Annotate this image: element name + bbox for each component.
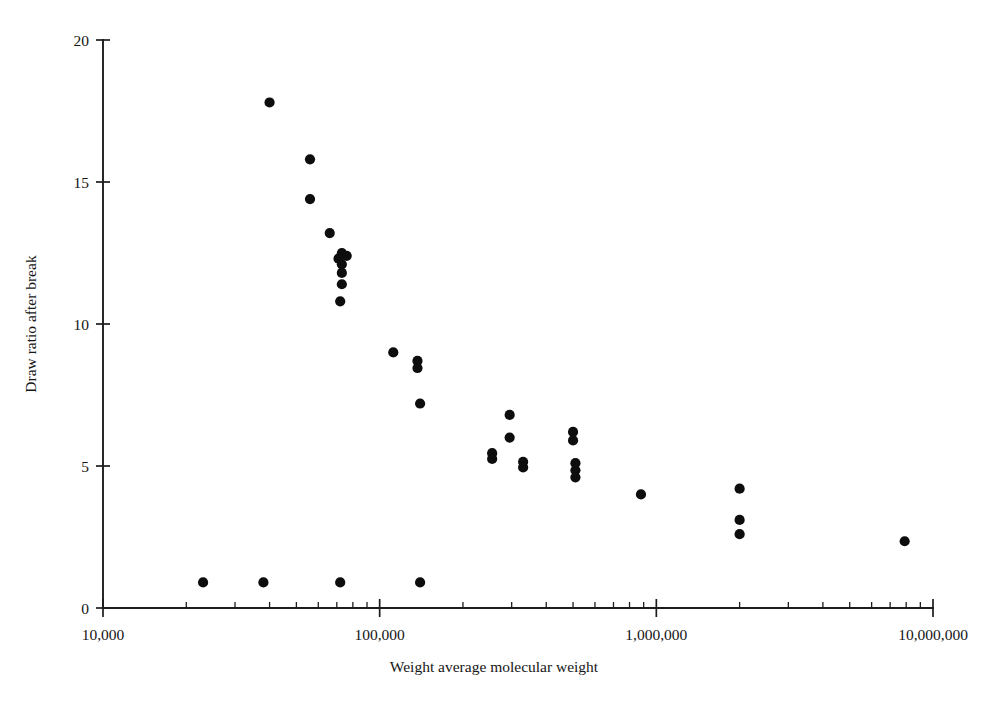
scatter-plot-figure: 0510152010,000100,0001,000,00010,000,000…	[0, 0, 986, 714]
y-tick-label: 10	[74, 316, 90, 333]
x-axis-title: Weight average molecular weight	[390, 658, 599, 675]
x-tick-label: 10,000,000	[898, 626, 968, 643]
y-axis-title: Draw ratio after break	[22, 255, 39, 393]
axis-group	[103, 40, 933, 608]
y-tick-label: 20	[74, 32, 90, 49]
data-point	[305, 154, 315, 164]
data-points-group	[198, 97, 910, 587]
data-point	[636, 489, 646, 499]
data-point	[412, 363, 422, 373]
data-point	[415, 398, 425, 408]
data-point	[337, 279, 347, 289]
data-point	[325, 228, 335, 238]
data-point	[518, 462, 528, 472]
x-tick-label: 1,000,000	[625, 626, 687, 643]
data-point	[258, 577, 268, 587]
data-point	[198, 577, 208, 587]
data-point	[305, 194, 315, 204]
data-point	[568, 435, 578, 445]
x-tick-label: 10,000	[82, 626, 125, 643]
data-point	[388, 347, 398, 357]
tick-group	[96, 40, 933, 617]
data-point	[264, 97, 274, 107]
data-point	[735, 484, 745, 494]
data-point	[415, 577, 425, 587]
data-point	[900, 536, 910, 546]
chart-canvas: 0510152010,000100,0001,000,00010,000,000…	[0, 0, 986, 714]
data-point	[505, 433, 515, 443]
data-point	[335, 577, 345, 587]
y-tick-label: 15	[74, 174, 90, 191]
data-point	[337, 268, 347, 278]
data-point	[735, 515, 745, 525]
x-tick-label: 100,000	[354, 626, 405, 643]
data-point	[505, 410, 515, 420]
y-tick-label: 5	[81, 458, 89, 475]
data-point	[487, 454, 497, 464]
data-point	[335, 296, 345, 306]
data-point	[570, 472, 580, 482]
y-tick-label: 0	[81, 600, 89, 617]
data-point	[735, 529, 745, 539]
tick-label-group: 0510152010,000100,0001,000,00010,000,000	[74, 32, 969, 644]
